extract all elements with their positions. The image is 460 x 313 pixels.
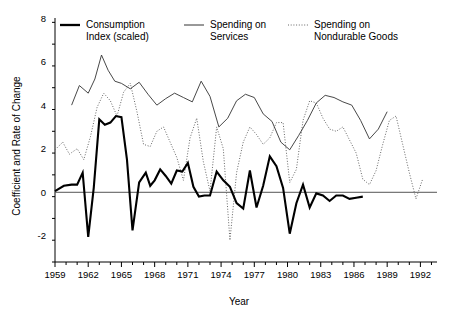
chart-container: -202468 19591962196519681971197419771980…: [0, 0, 460, 313]
x-tick-label: 1974: [211, 269, 232, 280]
legend-label-nondurable-line1: Spending on: [314, 19, 370, 30]
y-tick-label: 0: [41, 187, 46, 198]
y-tick-label: 6: [41, 56, 46, 67]
x-tick-label: 1968: [144, 269, 165, 280]
legend-item-nondurable-goods: Spending on Nondurable Goods: [288, 19, 398, 42]
x-tick-label: 1980: [277, 269, 298, 280]
y-tick-label: 8: [41, 13, 46, 24]
y-tick-label: 4: [41, 100, 46, 111]
x-tick-label: 1965: [111, 269, 132, 280]
legend-label-consumption-line1: Consumption: [86, 19, 145, 30]
x-axis-title: Year: [229, 296, 250, 307]
series-line-spending-services: [72, 55, 388, 150]
chart-legend: Consumption Index (scaled) Spending on S…: [60, 19, 398, 42]
series-line-consumption-index: [55, 116, 363, 237]
x-tick-label: 1992: [410, 269, 431, 280]
y-tick-label: 2: [41, 143, 46, 154]
x-tick-label: 1986: [343, 269, 364, 280]
y-axis-title: Coefficient and Rate of Change: [11, 76, 22, 216]
legend-label-services-line2: Services: [210, 31, 248, 42]
y-axis-tick-labels: -202468: [38, 13, 46, 242]
legend-label-nondurable-line2: Nondurable Goods: [314, 31, 398, 42]
legend-item-spending-services: Spending on Services: [184, 19, 266, 42]
x-tick-label: 1989: [377, 269, 398, 280]
legend-label-consumption-line2: Index (scaled): [86, 31, 149, 42]
legend-label-services-line1: Spending on: [210, 19, 266, 30]
y-tick-label: -2: [38, 230, 46, 241]
x-tick-label: 1959: [44, 269, 65, 280]
x-tick-label: 1962: [78, 269, 99, 280]
line-chart-figure: -202468 19591962196519681971197419771980…: [0, 0, 460, 313]
x-tick-label: 1977: [244, 269, 265, 280]
x-tick-label: 1983: [310, 269, 331, 280]
x-axis-ticks: [55, 262, 431, 267]
x-tick-label: 1971: [177, 269, 198, 280]
x-axis-tick-labels: 1959196219651968197119741977198019831986…: [44, 269, 431, 280]
series-group: [55, 55, 423, 240]
legend-item-consumption-index: Consumption Index (scaled): [60, 19, 149, 42]
series-line-nondurable-goods: [55, 83, 423, 240]
